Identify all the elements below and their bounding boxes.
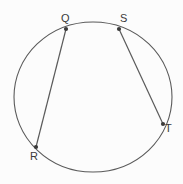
chord-st [119,29,163,124]
point-marker-q [64,27,68,31]
vertex-label-q: Q [61,13,70,24]
vertex-label-r: R [30,151,38,162]
circle-diagram-canvas [0,0,183,184]
vertex-label-t: T [165,123,172,134]
point-marker-r [34,145,38,149]
geometry-figure: Q S T R [0,0,183,184]
vertex-label-s: S [120,13,127,24]
point-marker-s [117,27,121,31]
chord-qr [36,29,66,147]
